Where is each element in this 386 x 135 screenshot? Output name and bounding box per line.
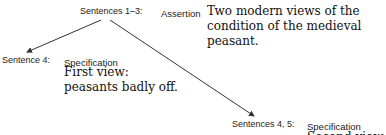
content-line: Two modern views of the xyxy=(207,4,361,19)
node-child2-content: Second view xyxy=(307,130,383,135)
node-root-content: Two modern views of the condition of the… xyxy=(207,4,361,49)
node-root-role: Assertion xyxy=(161,8,201,19)
content-line: First view: xyxy=(64,65,178,80)
edge-root-to-child1 xyxy=(27,20,101,52)
content-line: peasants badly off. xyxy=(64,80,178,95)
node-child2-sentences: Sentences 4, 5: xyxy=(232,119,295,129)
node-child1-sentences: Sentence 4: xyxy=(2,55,50,65)
content-line: Second view xyxy=(307,130,383,135)
content-line: condition of the medieval xyxy=(207,19,361,34)
content-line: peasant. xyxy=(207,34,361,49)
node-root-sentences: Sentences 1–3: xyxy=(80,6,143,16)
node-child1-content: First view: peasants badly off. xyxy=(64,65,178,95)
